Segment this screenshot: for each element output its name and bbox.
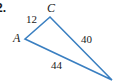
side-cb-length: 40 — [81, 34, 92, 45]
side-ab-length: 44 — [51, 60, 62, 71]
vertex-a-label: A — [13, 32, 20, 44]
vertex-c-label: C — [47, 2, 55, 14]
side-ac-length: 12 — [26, 14, 37, 25]
triangle-outline — [25, 17, 112, 80]
